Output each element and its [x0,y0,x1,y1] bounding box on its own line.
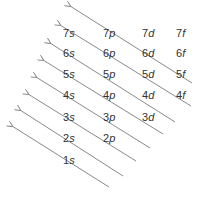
filling-order-arrow [70,6,192,83]
orbital-label: 3d [142,112,154,123]
orbital-label: 6s [63,48,75,59]
orbital-label: 3p [103,112,115,123]
subshell-letter: d [148,68,154,80]
subshell-letter: p [109,47,115,59]
subshell-letter: s [69,27,75,39]
orbital-label: 5d [142,69,154,80]
diagonal-arrows [0,0,203,197]
subshell-letter: s [69,154,75,166]
subshell-letter: f [182,68,185,80]
orbital-label: 4s [63,90,75,101]
subshell-letter: d [148,111,154,123]
subshell-letter: d [148,89,154,101]
orbital-label: 6f [176,48,185,59]
orbital-label: 5f [176,69,185,80]
aufbau-diagram: 7s7p7d7f6s6p6d6f5s5p5d5f4s4p4d4f3s3p3d2s… [0,0,203,197]
subshell-letter: s [69,89,75,101]
subshell-letter: p [109,68,115,80]
orbital-label: 2p [103,133,115,144]
orbital-label: 5p [103,69,115,80]
orbital-label: 7p [103,28,115,39]
subshell-letter: f [182,27,185,39]
subshell-letter: p [109,132,115,144]
subshell-letter: p [109,89,115,101]
subshell-letter: s [69,132,75,144]
orbital-label: 7s [63,28,75,39]
orbital-label: 4f [176,90,185,101]
orbital-label: 7d [142,28,154,39]
orbital-label: 7f [176,28,185,39]
subshell-letter: p [109,111,115,123]
orbital-label: 1s [63,155,75,166]
orbital-label: 2s [63,133,75,144]
subshell-letter: f [182,47,185,59]
subshell-letter: s [69,68,75,80]
orbital-label: 5s [63,69,75,80]
subshell-letter: f [182,89,185,101]
filling-order-arrow [60,25,191,106]
subshell-letter: p [109,27,115,39]
subshell-letter: d [148,47,154,59]
orbital-label: 6p [103,48,115,59]
filling-order-arrow [28,94,136,161]
subshell-letter: s [69,47,75,59]
orbital-label: 6d [142,48,154,59]
filling-order-arrow [36,77,150,148]
orbital-label: 4d [142,90,154,101]
subshell-letter: d [148,27,154,39]
orbital-label: 4p [103,90,115,101]
orbital-label: 3s [63,112,75,123]
subshell-letter: s [69,111,75,123]
